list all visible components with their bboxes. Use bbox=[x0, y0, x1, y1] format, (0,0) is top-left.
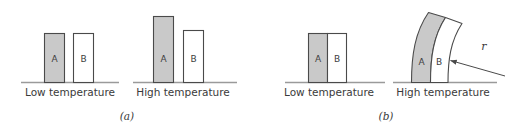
panel-b: A B Low temperature A B bbox=[284, 13, 505, 123]
panel-a-low-temperature-group: A B Low temperature bbox=[21, 34, 119, 99]
radius-leader-line bbox=[451, 61, 506, 77]
bar-a-high bbox=[154, 17, 174, 83]
strip-b-low-label: B bbox=[334, 54, 340, 64]
panel-a-high-condition-label: High temperature bbox=[136, 86, 229, 98]
strip-a-low-label: A bbox=[315, 54, 322, 64]
panel-a-caption: (a) bbox=[120, 110, 134, 122]
panel-b-low-temperature-group: A B Low temperature bbox=[284, 34, 385, 99]
strip-b-high-label: B bbox=[436, 57, 442, 67]
bar-b-low-label: B bbox=[80, 54, 86, 64]
radius-label: r bbox=[481, 40, 487, 53]
thermal-expansion-figure: A B Low temperature A B High temperature… bbox=[0, 0, 517, 132]
bar-b-high-label: B bbox=[190, 54, 196, 64]
panel-b-high-temperature-group: A B r High temperature bbox=[393, 13, 505, 99]
panel-a-high-temperature-group: A B High temperature bbox=[133, 17, 237, 99]
bar-a-low-label: A bbox=[51, 54, 58, 64]
panel-a: A B Low temperature A B High temperature… bbox=[21, 17, 237, 123]
panel-b-high-condition-label: High temperature bbox=[396, 86, 489, 98]
bar-a-high-label: A bbox=[160, 54, 167, 64]
panel-a-low-condition-label: Low temperature bbox=[25, 86, 115, 98]
panel-b-low-condition-label: Low temperature bbox=[284, 86, 374, 98]
panel-b-caption: (b) bbox=[379, 110, 394, 122]
strip-a-high-label: A bbox=[418, 57, 425, 67]
